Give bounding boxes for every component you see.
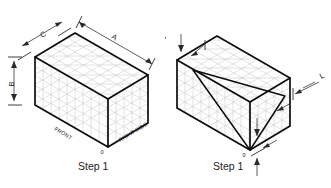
caption-step-1-left: Step 1 bbox=[78, 160, 108, 172]
figure-step-1-triangular-feature-box: L 0 bbox=[165, 0, 331, 188]
dimension-a: A bbox=[76, 16, 155, 70]
dimension-label-c: C bbox=[38, 29, 48, 40]
iso-grid-right-face bbox=[100, 47, 166, 169]
dimension-l: L bbox=[293, 71, 326, 100]
iso-grid-top-face bbox=[165, 27, 331, 134]
face-label-front: FRONT bbox=[54, 126, 74, 141]
iso-grid-right-face bbox=[242, 50, 322, 172]
dimension-label-b: B bbox=[7, 81, 16, 86]
caption-step-1-right: Step 1 bbox=[213, 160, 243, 172]
origin-label: 0 bbox=[242, 152, 245, 158]
origin-label: 0 bbox=[100, 149, 103, 155]
dimension-b: B bbox=[7, 57, 22, 105]
drawing-canvas: C A B FRONT RIGHT SIDE 0 bbox=[0, 0, 331, 188]
dimension-leader-top-left bbox=[165, 24, 205, 56]
face-label-right-side: RIGHT SIDE bbox=[117, 121, 148, 143]
dimension-label-l: L bbox=[318, 71, 326, 81]
